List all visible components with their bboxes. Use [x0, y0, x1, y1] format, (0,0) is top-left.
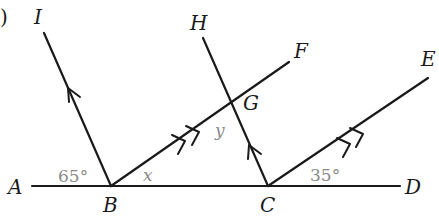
label-C: C: [260, 193, 275, 216]
parallel-arrow-double-icon: [172, 135, 185, 154]
label-F: F: [293, 39, 309, 63]
label-B: B: [102, 193, 118, 216]
line-BF: [111, 62, 289, 186]
parallel-arrow-double-icon: [186, 126, 199, 145]
line-CE: [268, 78, 428, 186]
angle-label-65: 65°: [58, 166, 88, 186]
geometry-diagram: ) A B C D E F G H I 65° 35° x y: [0, 0, 439, 216]
label-H: H: [189, 11, 208, 35]
angle-label-35: 35°: [310, 165, 340, 185]
parallel-arrow-double-icon: [350, 128, 363, 147]
label-prefix: ): [0, 5, 8, 29]
line-BI: [44, 33, 111, 186]
parallel-arrow-double-icon: [337, 138, 350, 157]
label-G: G: [243, 91, 259, 115]
label-D: D: [404, 175, 421, 199]
angle-variable-y: y: [214, 120, 225, 140]
angle-variable-x: x: [143, 165, 153, 185]
label-I: I: [33, 5, 43, 29]
label-E: E: [420, 47, 436, 71]
label-A: A: [6, 175, 22, 199]
